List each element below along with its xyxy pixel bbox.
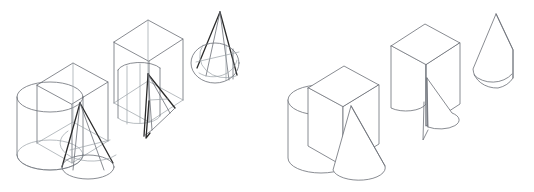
hiddenline-group [288, 14, 513, 180]
assembly-solid [288, 66, 385, 180]
cad-figure-svg [0, 0, 534, 192]
box-cut-solid [391, 24, 460, 140]
box-wireframe [37, 63, 108, 163]
cad-figure-canvas [0, 0, 534, 192]
box-cut-wireframe [114, 20, 183, 138]
wireframe-group [17, 12, 239, 179]
cone-cylinder-solid [473, 14, 513, 88]
cylinder-cavity-wireframe [118, 62, 160, 124]
assembly-wireframe [17, 63, 116, 179]
cone-cylinder-wireframe [191, 12, 239, 83]
